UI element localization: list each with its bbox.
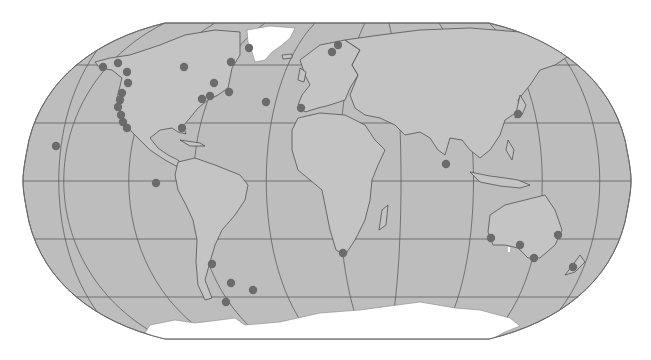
location-marker-hudson-bay[interactable] — [180, 63, 188, 71]
location-marker-portugal[interactable] — [297, 104, 305, 112]
location-marker-baja[interactable] — [123, 124, 131, 132]
world-map: World map with marked coastal locations — [0, 0, 651, 360]
location-marker-greenland-west[interactable] — [245, 44, 253, 52]
location-marker-galapagos[interactable] — [152, 179, 160, 187]
location-marker-south-africa[interactable] — [339, 249, 347, 257]
location-marker-western-australia[interactable] — [487, 234, 495, 242]
location-marker-azores[interactable] — [262, 98, 270, 106]
location-marker-argentina-south[interactable] — [227, 279, 235, 287]
location-marker-maine[interactable] — [206, 92, 214, 100]
location-marker-new-york[interactable] — [198, 95, 206, 103]
location-marker-south-australia[interactable] — [516, 241, 524, 249]
location-marker-bc-south[interactable] — [124, 79, 132, 87]
location-marker-norway-north[interactable] — [334, 41, 342, 49]
location-marker-japan[interactable] — [514, 110, 522, 118]
location-marker-florida[interactable] — [178, 124, 186, 132]
iceland — [282, 54, 292, 59]
map-canvas — [0, 0, 651, 360]
location-marker-tierra-del-fuego[interactable] — [222, 298, 230, 306]
location-marker-newfoundland[interactable] — [225, 88, 233, 96]
location-marker-california-north[interactable] — [114, 103, 122, 111]
lake-eyre-patch — [508, 247, 510, 252]
location-marker-quebec[interactable] — [210, 79, 218, 87]
location-marker-victoria[interactable] — [530, 254, 538, 262]
location-marker-sri-lanka[interactable] — [442, 160, 450, 168]
location-marker-queensland[interactable] — [554, 231, 562, 239]
location-marker-new-zealand[interactable] — [569, 263, 577, 271]
location-marker-bc-north[interactable] — [123, 68, 131, 76]
location-marker-labrador[interactable] — [227, 58, 235, 66]
location-marker-alaska-south[interactable] — [114, 59, 122, 67]
location-marker-norway-south[interactable] — [328, 48, 336, 56]
location-marker-hawaii[interactable] — [52, 142, 60, 150]
location-marker-alaska-west[interactable] — [99, 63, 107, 71]
location-marker-patagonia[interactable] — [208, 260, 216, 268]
location-marker-falklands[interactable] — [249, 286, 257, 294]
